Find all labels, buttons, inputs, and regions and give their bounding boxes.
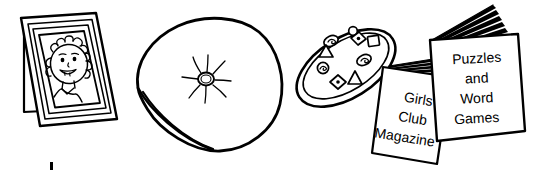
book-right-line3: Word bbox=[460, 89, 494, 107]
photo-frame bbox=[21, 13, 117, 126]
book-right-line2: and bbox=[465, 69, 489, 86]
book-right: Puzzles and Word Games bbox=[430, 5, 525, 141]
illustration-canvas: Girls' Club Magazine Puzzles bbox=[0, 0, 540, 174]
biscuit-circle-swirl bbox=[317, 62, 328, 73]
page-mark bbox=[50, 162, 53, 170]
cushion-button bbox=[198, 73, 214, 86]
cushion bbox=[137, 18, 282, 151]
book-right-line4: Games bbox=[454, 109, 500, 127]
book-right-line1: Puzzles bbox=[452, 49, 502, 68]
biscuit-square bbox=[367, 35, 379, 46]
